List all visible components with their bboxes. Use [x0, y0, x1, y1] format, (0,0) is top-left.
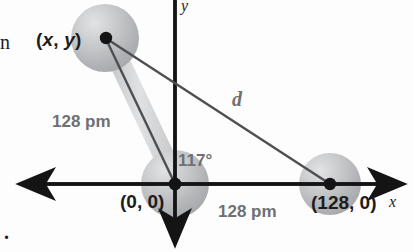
label-bond-angle: 117° [178, 152, 212, 169]
construction-lines [106, 39, 330, 184]
label-bond-length-left: 128 pm [52, 113, 111, 130]
molecular-geometry-figure: (x, y) (0, 0) (128, 0) 128 pm 128 pm 117… [0, 0, 413, 252]
label-distance-d: d [232, 89, 242, 109]
label-y-axis: y [181, 0, 188, 14]
label-point-xy: (x, y) [36, 30, 82, 49]
label-bond-length-bottom: 128 pm [218, 203, 277, 220]
vertex-dot-xy [100, 32, 112, 44]
vertex-dot-origin [169, 178, 182, 191]
page-cut-letter: n [0, 32, 10, 52]
page-period-artifact: . [4, 222, 9, 242]
vertex-dot-right [324, 178, 336, 190]
label-point-origin: (0, 0) [120, 192, 164, 211]
label-point-right: (128, 0) [311, 193, 376, 212]
label-x-axis: x [389, 194, 396, 210]
